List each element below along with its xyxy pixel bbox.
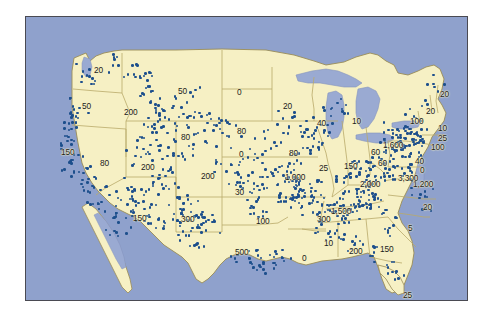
label-ca: 150 [61, 148, 75, 156]
dot-distribution-map-figure: 2050150200500808008020020030100500150300… [0, 0, 491, 318]
label-pa: 1,600 [383, 141, 403, 149]
label-il: 150 [344, 162, 358, 170]
label-id: 200 [124, 108, 138, 116]
label-ar: 300 [317, 215, 331, 223]
label-nm: 300 [181, 215, 195, 223]
label-ky: 2,000 [360, 180, 380, 188]
label-sd: 80 [237, 127, 246, 135]
map-label-layer: 2050150200500808008020020030100500150300… [26, 17, 467, 300]
label-fl: 25 [403, 291, 412, 299]
label-ga: 150 [380, 245, 394, 253]
label-la: 0 [302, 254, 307, 262]
label-de: 40 [415, 157, 424, 165]
label-in: 25 [319, 164, 328, 172]
label-md: 0 [420, 166, 425, 174]
label-or: 50 [82, 102, 91, 110]
label-co: 200 [201, 172, 215, 180]
label-mi: 10 [352, 117, 361, 125]
label-ut: 200 [141, 163, 155, 171]
label-mo: 1,000 [285, 173, 305, 181]
label-az: 150 [133, 214, 147, 222]
label-ma: 10 [438, 124, 447, 132]
label-nv: 80 [100, 159, 109, 167]
label-nj: 100 [431, 143, 445, 151]
label-nc: 20 [423, 203, 432, 211]
label-ny: 100 [410, 117, 424, 125]
label-ct: 25 [438, 134, 447, 142]
label-oh: 60 [378, 159, 387, 167]
label-tx: 500 [235, 248, 249, 256]
label-me: 20 [440, 90, 449, 98]
label-ia: 80 [289, 149, 298, 157]
label-vtnh: 20 [426, 107, 435, 115]
label-sc: 5 [408, 224, 413, 232]
label-ok: 100 [256, 217, 270, 225]
label-wi: 40 [317, 119, 326, 127]
label-ks: 30 [235, 188, 244, 196]
label-al: 200 [349, 247, 363, 255]
label-nd: 0 [237, 88, 242, 96]
label-ne: 0 [239, 150, 244, 158]
map-frame: 2050150200500808008020020030100500150300… [25, 16, 468, 301]
label-oh2: 60 [371, 148, 380, 156]
label-mn: 20 [283, 102, 292, 110]
label-tn: 1,500 [331, 207, 351, 215]
label-wv: 3,300 [398, 174, 418, 182]
label-mt: 50 [178, 87, 187, 95]
label-wa: 20 [94, 66, 103, 74]
label-wy: 80 [181, 133, 190, 141]
label-ms: 10 [324, 239, 333, 247]
